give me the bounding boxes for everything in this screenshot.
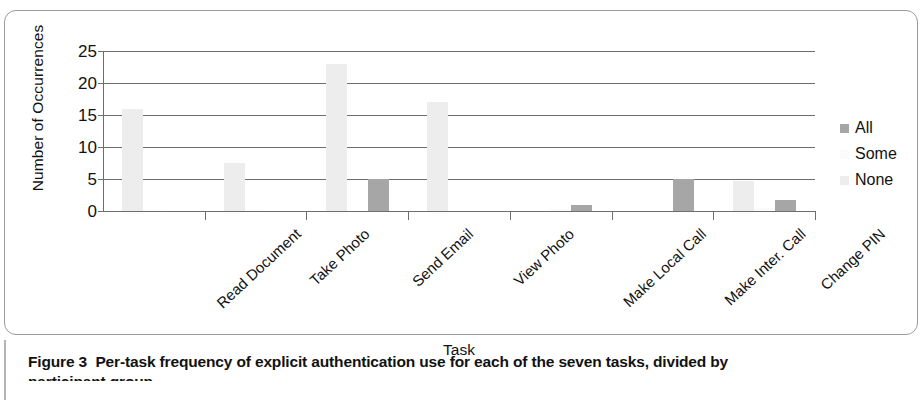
x-tick-mark bbox=[815, 211, 816, 220]
bar-none[interactable] bbox=[733, 181, 754, 211]
bar-group bbox=[713, 51, 815, 211]
legend-label-all: All bbox=[855, 120, 873, 136]
x-axis-label-read-document: Read Document bbox=[213, 225, 304, 311]
y-axis-line bbox=[103, 51, 104, 211]
bar-group bbox=[612, 51, 714, 211]
bar-none[interactable] bbox=[122, 109, 143, 211]
y-tick-label-25: 25 bbox=[57, 43, 97, 60]
x-axis-label-make-inter-call: Make Inter. Call bbox=[721, 225, 809, 309]
plot-wrapper: Task 0510152025Read DocumentTake PhotoSe… bbox=[103, 41, 815, 213]
figure-frame: Number of Occurrences Task 0510152025Rea… bbox=[4, 10, 918, 335]
legend-label-some: Some bbox=[855, 146, 897, 162]
plot-area bbox=[103, 51, 815, 211]
figure-caption-line2: participant group bbox=[28, 372, 898, 381]
bar-none[interactable] bbox=[427, 102, 448, 211]
legend-item-none[interactable]: None bbox=[840, 167, 920, 193]
legend-item-all[interactable]: All bbox=[840, 115, 920, 141]
bar-all[interactable] bbox=[775, 200, 796, 211]
bar-all[interactable] bbox=[673, 179, 694, 211]
x-axis-line bbox=[103, 211, 815, 212]
page-margin-rule bbox=[4, 340, 6, 400]
x-axis-label-view-photo: View Photo bbox=[510, 225, 577, 289]
legend-swatch-some-icon bbox=[840, 150, 849, 159]
y-tick-label-10: 10 bbox=[57, 139, 97, 156]
x-axis-label-change-pin: Change PIN bbox=[817, 225, 888, 293]
x-axis-label-take-photo: Take Photo bbox=[306, 225, 372, 289]
figure-caption-label: Figure 3 bbox=[28, 353, 87, 370]
y-axis-title: Number of Occurrences bbox=[29, 13, 47, 203]
legend-swatch-none-icon bbox=[840, 176, 849, 185]
legend-label-none: None bbox=[855, 172, 893, 188]
y-tick-label-0: 0 bbox=[57, 203, 97, 220]
y-tick-label-5: 5 bbox=[57, 171, 97, 188]
y-tick-label-20: 20 bbox=[57, 75, 97, 92]
x-tick-mark bbox=[713, 211, 714, 220]
bar-group bbox=[205, 51, 307, 211]
legend-swatch-all-icon bbox=[840, 124, 849, 133]
x-tick-mark bbox=[510, 211, 511, 220]
bar-all[interactable] bbox=[368, 179, 389, 211]
figure-caption-text: Per-task frequency of explicit authentic… bbox=[95, 353, 728, 370]
x-axis-label-make-local-call: Make Local Call bbox=[620, 225, 710, 310]
chart-legend: AllSomeNone bbox=[840, 115, 920, 193]
bar-group bbox=[306, 51, 408, 211]
x-tick-mark bbox=[205, 211, 206, 220]
y-tick-label-15: 15 bbox=[57, 107, 97, 124]
x-tick-mark bbox=[612, 211, 613, 220]
x-axis-label-send-email: Send Email bbox=[408, 225, 476, 290]
bar-none[interactable] bbox=[224, 163, 245, 211]
bar-group bbox=[510, 51, 612, 211]
figure-caption: Figure 3 Per-task frequency of explicit … bbox=[28, 352, 898, 381]
legend-item-some[interactable]: Some bbox=[840, 141, 920, 167]
x-tick-mark bbox=[408, 211, 409, 220]
x-tick-mark bbox=[306, 211, 307, 220]
bar-group bbox=[408, 51, 510, 211]
bar-group bbox=[103, 51, 205, 211]
bar-none[interactable] bbox=[326, 64, 347, 211]
